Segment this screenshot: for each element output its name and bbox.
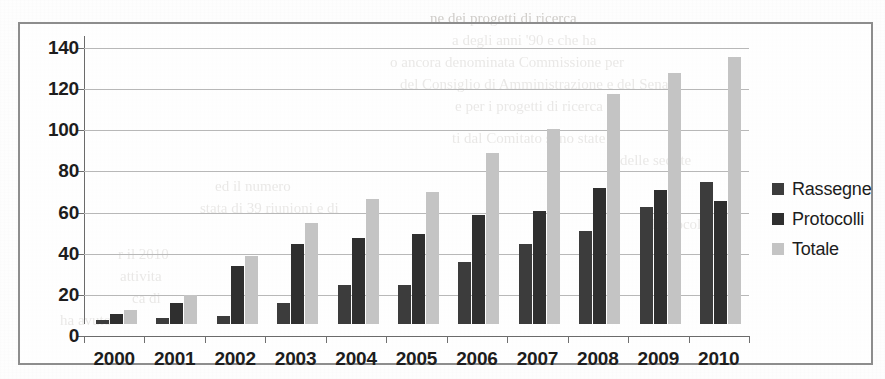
bar-series-layer <box>84 36 749 324</box>
x-axis-tick <box>749 336 750 343</box>
x-axis-tick <box>568 336 569 343</box>
bar-protocolli-2006 <box>472 215 485 324</box>
x-axis-tick <box>689 336 690 343</box>
x-axis-tick-label: 2002 <box>205 348 265 370</box>
x-axis-tick <box>447 336 448 343</box>
bar-group <box>579 36 620 324</box>
bar-group <box>338 36 379 324</box>
bar-group <box>640 36 681 324</box>
bar-totale-2003 <box>305 223 318 324</box>
x-axis-tick <box>84 336 85 343</box>
bar-rassegne-2000 <box>96 320 109 324</box>
bar-rassegne-2004 <box>338 285 351 324</box>
legend-item-rassegne[interactable]: Rassegne <box>772 174 885 204</box>
x-axis-tick <box>386 336 387 343</box>
bar-group <box>519 36 560 324</box>
plot-area: 020406080100120140 200020012002200320042… <box>84 36 749 336</box>
bar-protocolli-2008 <box>593 188 606 324</box>
y-axis-tick-label: 20 <box>19 284 79 306</box>
bar-protocolli-2002 <box>231 266 244 324</box>
legend-item-label: Protocolli <box>792 209 864 230</box>
bar-totale-2002 <box>245 256 258 324</box>
bar-protocolli-2007 <box>533 211 546 324</box>
bar-totale-2004 <box>366 199 379 324</box>
bar-rassegne-2010 <box>700 182 713 324</box>
bar-protocolli-2009 <box>654 190 667 324</box>
x-axis-baseline <box>84 336 749 337</box>
x-axis-tick-label: 2007 <box>507 348 567 370</box>
bar-totale-2005 <box>426 192 439 324</box>
bar-totale-2000 <box>124 310 137 324</box>
bar-protocolli-2004 <box>352 238 365 324</box>
bar-rassegne-2001 <box>156 318 169 324</box>
x-axis-tick-label: 2000 <box>84 348 144 370</box>
bar-rassegne-2006 <box>458 262 471 324</box>
y-axis-tick-label: 0 <box>19 325 79 347</box>
bar-rassegne-2005 <box>398 285 411 324</box>
bar-totale-2010 <box>728 57 741 324</box>
chart-legend: RassegneProtocolliTotale <box>772 174 885 264</box>
x-axis-tick-label: 2009 <box>628 348 688 370</box>
legend-swatch-icon <box>772 183 784 195</box>
x-axis-tick-label: 2004 <box>326 348 386 370</box>
bar-rassegne-2009 <box>640 207 653 324</box>
legend-swatch-icon <box>772 213 784 225</box>
bar-rassegne-2008 <box>579 231 592 324</box>
bar-rassegne-2002 <box>217 316 230 324</box>
bar-totale-2009 <box>668 73 681 324</box>
bar-totale-2007 <box>547 129 560 324</box>
bar-protocolli-2005 <box>412 234 425 325</box>
x-axis-tick-label: 2010 <box>689 348 749 370</box>
x-axis-tick-label: 2008 <box>568 348 628 370</box>
y-axis-tick-label: 60 <box>19 202 79 224</box>
bar-group <box>398 36 439 324</box>
bar-protocolli-2010 <box>714 201 727 324</box>
chart-frame: 020406080100120140 200020012002200320042… <box>18 22 873 365</box>
bar-group <box>700 36 741 324</box>
legend-item-totale[interactable]: Totale <box>772 234 885 264</box>
bar-protocolli-2001 <box>170 303 183 324</box>
legend-item-label: Totale <box>792 239 839 260</box>
bar-totale-2008 <box>607 94 620 324</box>
x-axis-tick <box>628 336 629 343</box>
bar-group <box>96 36 137 324</box>
x-axis-tick-label: 2005 <box>386 348 446 370</box>
x-axis-tick-label: 2003 <box>265 348 325 370</box>
x-axis-tick <box>507 336 508 343</box>
x-axis-tick <box>205 336 206 343</box>
x-axis-tick <box>144 336 145 343</box>
y-axis-tick-label: 100 <box>19 119 79 141</box>
y-axis-tick-label: 40 <box>19 243 79 265</box>
legend-item-label: Rassegne <box>792 179 871 200</box>
legend-item-protocolli[interactable]: Protocolli <box>772 204 885 234</box>
bar-rassegne-2003 <box>277 303 290 324</box>
y-axis-tick-label: 120 <box>19 78 79 100</box>
x-axis-tick-label: 2006 <box>447 348 507 370</box>
bar-group <box>156 36 197 324</box>
x-axis-tick <box>326 336 327 343</box>
bar-rassegne-2007 <box>519 244 532 324</box>
bar-totale-2001 <box>184 295 197 324</box>
bar-group <box>217 36 258 324</box>
bar-totale-2006 <box>486 153 499 324</box>
y-axis-tick-label: 140 <box>19 37 79 59</box>
bar-group <box>458 36 499 324</box>
bar-protocolli-2000 <box>110 314 123 324</box>
y-axis-tick-label: 80 <box>19 160 79 182</box>
legend-swatch-icon <box>772 243 784 255</box>
x-axis-tick-label: 2001 <box>144 348 204 370</box>
x-axis-tick <box>265 336 266 343</box>
bar-group <box>277 36 318 324</box>
bar-protocolli-2003 <box>291 244 304 324</box>
